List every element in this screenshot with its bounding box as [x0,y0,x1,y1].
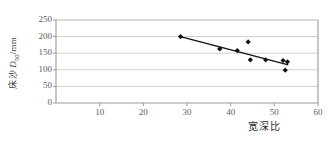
x-tick-label: 30 [175,108,199,117]
y-tick-label: 150 [22,48,52,57]
y-tick-label: 50 [22,81,52,90]
y-tick-label: 250 [22,15,52,24]
regression-line [180,37,288,65]
x-tick-label: 50 [262,108,286,117]
y-tick-label: 100 [22,65,52,74]
y-axis-label-text: 床沙 D50/mm [6,37,20,89]
gridlines [56,20,318,86]
x-axis-label: 宽深比 [248,118,281,133]
y-axis-label: 床沙 D50/mm [2,24,24,102]
axis-lines [56,20,318,103]
data-point-marker [246,39,251,44]
x-tick-label: 60 [306,108,330,117]
data-point-marker [248,57,253,62]
y-tick-label: 200 [22,32,52,41]
trend-line [180,37,288,65]
x-tick-label: 40 [219,108,243,117]
x-tick-label: 20 [131,108,155,117]
chart-figure: 050100150200250 102030405060 床沙 D50/mm 宽… [0,0,332,142]
y-tick-label: 0 [22,98,52,107]
data-point-marker [283,68,288,73]
data-point-marker [178,34,183,39]
x-tick-label: 10 [88,108,112,117]
data-point-marker [280,58,285,63]
